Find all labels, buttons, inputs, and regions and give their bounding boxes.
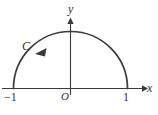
origin-label: O <box>61 91 69 102</box>
x-tick-label-negative-one: −1 <box>4 91 17 103</box>
x-axis-label: x <box>147 82 152 94</box>
curve-label-c: C <box>22 40 30 52</box>
math-figure-semicircle-contour: y x C O −1 1 <box>0 0 158 115</box>
y-axis-label: y <box>68 3 73 15</box>
y-axis-arrowhead <box>67 18 73 25</box>
x-tick-label-one: 1 <box>123 91 129 103</box>
figure-canvas <box>0 0 158 115</box>
curve-direction-arrowhead <box>35 48 47 57</box>
